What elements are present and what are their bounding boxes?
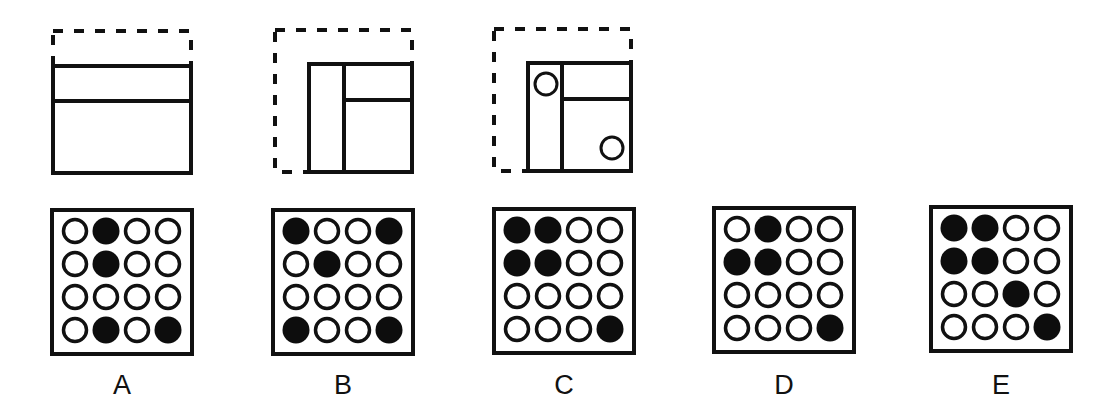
- empty-dot-icon: [347, 220, 370, 243]
- filled-dot-icon: [504, 250, 531, 277]
- answer-options: [52, 207, 1071, 354]
- filled-dot-icon: [93, 218, 120, 245]
- empty-dot-icon: [599, 219, 622, 242]
- empty-dot-icon: [157, 220, 180, 243]
- sequence-step-1: [53, 31, 191, 173]
- empty-dot-icon: [316, 319, 339, 342]
- empty-dot-icon: [568, 252, 591, 275]
- empty-dot-icon: [1036, 217, 1059, 240]
- empty-dot-icon: [506, 318, 529, 341]
- empty-dot-icon: [726, 317, 749, 340]
- empty-dot-icon: [537, 285, 560, 308]
- empty-dot-icon: [64, 253, 87, 276]
- option-label-a: A: [92, 370, 152, 400]
- option-c[interactable]: [494, 209, 634, 353]
- filled-dot-icon: [155, 317, 182, 344]
- filled-dot-icon: [314, 251, 341, 278]
- empty-dot-icon: [974, 316, 997, 339]
- filled-dot-icon: [1034, 314, 1061, 341]
- empty-dot-icon: [157, 286, 180, 309]
- option-label-d: D: [754, 370, 814, 400]
- folded-paper: [309, 64, 412, 172]
- option-e[interactable]: [931, 207, 1071, 351]
- empty-dot-icon: [285, 286, 308, 309]
- folded-paper: [53, 66, 191, 173]
- empty-dot-icon: [599, 285, 622, 308]
- empty-dot-icon: [1005, 316, 1028, 339]
- empty-dot-icon: [64, 220, 87, 243]
- filled-dot-icon: [283, 317, 310, 344]
- folded-paper: [528, 63, 631, 171]
- empty-dot-icon: [1005, 217, 1028, 240]
- filled-dot-icon: [941, 215, 968, 242]
- empty-dot-icon: [788, 317, 811, 340]
- empty-dot-icon: [757, 284, 780, 307]
- empty-dot-icon: [788, 218, 811, 241]
- empty-dot-icon: [347, 319, 370, 342]
- filled-dot-icon: [535, 217, 562, 244]
- empty-dot-icon: [126, 319, 149, 342]
- filled-dot-icon: [283, 218, 310, 245]
- filled-dot-icon: [941, 248, 968, 275]
- filled-dot-icon: [535, 250, 562, 277]
- empty-dot-icon: [599, 252, 622, 275]
- option-b[interactable]: [273, 210, 413, 354]
- empty-dot-icon: [819, 284, 842, 307]
- empty-dot-icon: [506, 285, 529, 308]
- empty-dot-icon: [347, 286, 370, 309]
- option-label-e: E: [971, 370, 1031, 400]
- empty-dot-icon: [1036, 283, 1059, 306]
- empty-dot-icon: [819, 218, 842, 241]
- empty-dot-icon: [726, 218, 749, 241]
- empty-dot-icon: [726, 284, 749, 307]
- empty-dot-icon: [788, 284, 811, 307]
- filled-dot-icon: [597, 316, 624, 343]
- empty-dot-icon: [974, 283, 997, 306]
- empty-dot-icon: [537, 318, 560, 341]
- empty-dot-icon: [64, 286, 87, 309]
- option-label-b: B: [313, 370, 373, 400]
- empty-dot-icon: [347, 253, 370, 276]
- empty-dot-icon: [943, 283, 966, 306]
- empty-dot-icon: [157, 253, 180, 276]
- empty-dot-icon: [316, 286, 339, 309]
- empty-dot-icon: [819, 251, 842, 274]
- empty-dot-icon: [568, 219, 591, 242]
- filled-dot-icon: [376, 218, 403, 245]
- filled-dot-icon: [93, 251, 120, 278]
- empty-dot-icon: [126, 253, 149, 276]
- filled-dot-icon: [93, 317, 120, 344]
- filled-dot-icon: [724, 249, 751, 276]
- empty-dot-icon: [1036, 250, 1059, 273]
- empty-dot-icon: [126, 286, 149, 309]
- option-label-c: C: [534, 370, 594, 400]
- empty-dot-icon: [943, 316, 966, 339]
- filled-dot-icon: [755, 216, 782, 243]
- empty-dot-icon: [568, 285, 591, 308]
- empty-dot-icon: [788, 251, 811, 274]
- empty-dot-icon: [378, 253, 401, 276]
- sequence-step-3: [494, 29, 631, 171]
- filled-dot-icon: [817, 315, 844, 342]
- empty-dot-icon: [1005, 250, 1028, 273]
- empty-dot-icon: [64, 319, 87, 342]
- sequence-step-2: [275, 30, 412, 172]
- empty-dot-icon: [316, 220, 339, 243]
- option-d[interactable]: [714, 208, 854, 352]
- empty-dot-icon: [568, 318, 591, 341]
- folding-sequence: [53, 29, 631, 173]
- empty-dot-icon: [757, 317, 780, 340]
- option-a[interactable]: [52, 210, 192, 354]
- empty-dot-icon: [285, 253, 308, 276]
- puzzle-canvas: [0, 0, 1118, 419]
- empty-dot-icon: [126, 220, 149, 243]
- filled-dot-icon: [972, 248, 999, 275]
- filled-dot-icon: [972, 215, 999, 242]
- empty-dot-icon: [378, 286, 401, 309]
- filled-dot-icon: [1003, 281, 1030, 308]
- filled-dot-icon: [504, 217, 531, 244]
- filled-dot-icon: [376, 317, 403, 344]
- empty-dot-icon: [95, 286, 118, 309]
- filled-dot-icon: [755, 249, 782, 276]
